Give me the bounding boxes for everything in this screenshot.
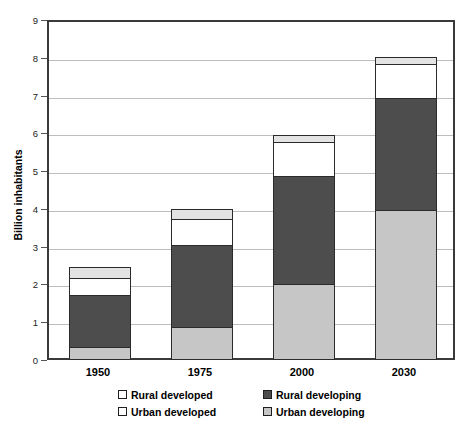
bar-segment-urban-developed [69,278,131,297]
bar-segment-urban-developing [171,327,233,359]
y-axis-tick-label: 2 [0,279,38,290]
legend-item-rural-developing[interactable]: Rural developing [263,389,418,401]
legend-swatch-rural-developing [263,390,272,399]
y-axis-tick-label: 6 [0,128,38,139]
legend-swatch-urban-developing [263,407,272,416]
legend: Rural developedRural developingUrban dev… [118,386,418,420]
legend-item-urban-developing[interactable]: Urban developing [263,406,418,418]
bar-segment-urban-developing [375,210,437,359]
x-axis-tick-label-1975: 1975 [155,366,245,378]
legend-label: Rural developing [276,389,361,401]
x-axis-tick-label-1950: 1950 [53,366,143,378]
bar-1975 [171,209,233,358]
y-axis-tick-label: 8 [0,52,38,63]
bar-segment-urban-developed [273,142,335,178]
bar-segment-rural-developing [273,176,335,286]
bar-segment-rural-developing [375,98,437,211]
legend-label: Urban developed [131,406,216,418]
y-axis-tick-label: 0 [0,355,38,366]
legend-swatch-rural-developed [118,390,127,399]
y-axis-tick-mark [41,360,47,361]
plot-area [47,20,455,360]
y-axis-tick-label: 4 [0,203,38,214]
bar-2000 [273,135,335,358]
legend-swatch-urban-developed [118,407,127,416]
bar-segment-urban-developed [375,64,437,100]
y-axis-tick-label: 7 [0,90,38,101]
stacked-bar-chart: Billion inhabitants 0123456789 195019752… [0,0,468,431]
y-axis-title-text: Billion inhabitants [12,150,24,241]
x-axis-tick-label-2000: 2000 [257,366,347,378]
bar-segment-rural-developing [69,295,131,349]
legend-item-rural-developed[interactable]: Rural developed [118,389,263,401]
bar-2030 [375,57,437,358]
y-axis-tick-label: 5 [0,166,38,177]
bar-segment-urban-developed [171,219,233,246]
legend-label: Rural developed [131,389,213,401]
legend-label: Urban developing [276,406,365,418]
bar-segment-urban-developing [69,347,131,359]
y-axis-tick-label: 3 [0,241,38,252]
bar-segment-rural-developing [171,245,233,329]
y-axis-tick-label: 1 [0,317,38,328]
x-axis-tick-label-2030: 2030 [359,366,449,378]
y-axis-tick-label: 9 [0,15,38,26]
bar-segment-urban-developing [273,284,335,360]
bar-1950 [69,267,131,358]
legend-item-urban-developed[interactable]: Urban developed [118,406,263,418]
